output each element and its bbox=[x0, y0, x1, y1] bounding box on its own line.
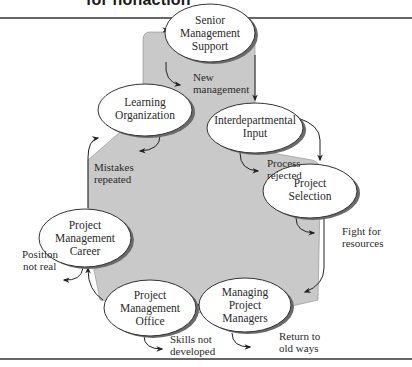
svg-text:Senior: Senior bbox=[195, 14, 225, 26]
svg-text:Input: Input bbox=[243, 127, 268, 140]
svg-text:Organization: Organization bbox=[115, 109, 175, 122]
svg-text:developed: developed bbox=[170, 345, 216, 357]
svg-text:Management: Management bbox=[55, 232, 116, 245]
svg-text:Managing: Managing bbox=[222, 286, 269, 299]
svg-text:Project: Project bbox=[69, 219, 102, 232]
svg-text:Interdepartmental: Interdepartmental bbox=[214, 114, 296, 127]
svg-text:Position: Position bbox=[22, 248, 59, 260]
svg-text:Learning: Learning bbox=[124, 96, 166, 109]
label-process-rejected: Process rejected bbox=[267, 157, 302, 181]
svg-text:Office: Office bbox=[135, 315, 164, 327]
svg-text:repeated: repeated bbox=[94, 173, 132, 185]
label-mistakes-repeated: Mistakes repeated bbox=[94, 161, 134, 185]
svg-text:Career: Career bbox=[70, 245, 101, 257]
svg-text:Management: Management bbox=[180, 27, 241, 40]
label-skills-not-developed: Skills not developed bbox=[170, 333, 216, 357]
svg-text:old ways: old ways bbox=[279, 342, 318, 354]
label-fight-for-resources: Fight for resources bbox=[342, 225, 384, 249]
svg-text:rejected: rejected bbox=[267, 169, 302, 181]
svg-text:not real: not real bbox=[23, 260, 56, 272]
svg-text:Skills not: Skills not bbox=[170, 333, 212, 345]
svg-text:Fight for: Fight for bbox=[342, 225, 381, 237]
svg-text:Process: Process bbox=[267, 157, 301, 169]
figure-title-fragment: for nonaction bbox=[86, 0, 191, 9]
branch-arrow-return-to-old-ways bbox=[232, 333, 250, 347]
svg-text:Support: Support bbox=[192, 40, 229, 53]
svg-text:Mistakes: Mistakes bbox=[94, 161, 134, 173]
svg-text:management: management bbox=[193, 83, 249, 95]
label-position-not-real: Position not real bbox=[22, 248, 59, 272]
svg-text:Project: Project bbox=[229, 299, 262, 312]
branch-arrow-position-not-real bbox=[64, 268, 83, 280]
svg-text:New: New bbox=[193, 71, 214, 83]
svg-text:Return to: Return to bbox=[279, 330, 321, 342]
svg-text:Managers: Managers bbox=[222, 312, 268, 325]
svg-text:Selection: Selection bbox=[289, 190, 332, 202]
diagram-canvas: for nonaction Senior bbox=[0, 0, 412, 367]
svg-text:Project: Project bbox=[134, 289, 167, 302]
svg-text:Management: Management bbox=[120, 302, 181, 315]
cycle-diagram: Senior Management Support Learning Organ… bbox=[0, 0, 412, 367]
label-return-to-old-ways: Return to old ways bbox=[279, 330, 321, 354]
svg-text:resources: resources bbox=[342, 237, 384, 249]
